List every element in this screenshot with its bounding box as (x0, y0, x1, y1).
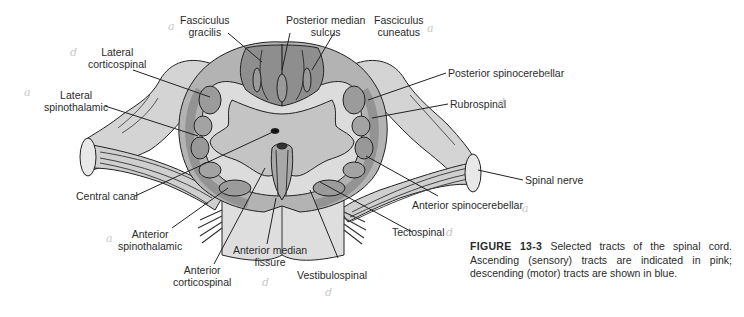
pencil-mark: a (522, 202, 529, 215)
label-line: fissure (233, 256, 307, 268)
label-line: cuneatus (374, 26, 424, 38)
pencil-mark: d (446, 226, 453, 239)
label-line: Lateral (88, 46, 146, 58)
label-fasciculus-gracilis: Fasciculus gracilis (180, 14, 230, 38)
label-tectospinal: Tectospinal (392, 226, 445, 238)
pencil-mark: a (24, 86, 31, 99)
pencil-mark: a (106, 232, 113, 245)
pencil-mark: d (325, 286, 332, 299)
label-line: spinothalamic (44, 101, 108, 113)
label-lateral-corticospinal: Lateral corticospinal (88, 46, 146, 70)
label-line: corticospinal (88, 58, 146, 70)
pencil-mark: a (168, 20, 175, 33)
label-vestibulospinal: Vestibulospinal (297, 269, 367, 281)
label-fasciculus-cuneatus: Fasciculus cuneatus (374, 14, 424, 38)
label-line: Anterior (173, 264, 231, 276)
label-line: Anterior (118, 228, 182, 240)
left-nerve-cut (80, 138, 96, 176)
label-posterior-median-sulcus: Posterior median sulcus (286, 14, 365, 38)
label-line: Fasciculus (374, 14, 424, 26)
label-anterior-spinothalamic: Anterior spinothalamic (118, 228, 182, 252)
label-line: Posterior median (286, 14, 365, 26)
pencil-mark: a (427, 22, 434, 35)
pencil-mark: d (70, 46, 77, 59)
pencil-mark: d (262, 276, 269, 289)
pencil-mark: a (545, 67, 552, 80)
label-line: corticospinal (173, 276, 231, 288)
pencil-mark: d (498, 96, 505, 109)
label-line: gracilis (180, 26, 230, 38)
label-line: Fasciculus (180, 14, 230, 26)
label-anterior-corticospinal: Anterior corticospinal (173, 264, 231, 288)
label-spinal-nerve: Spinal nerve (525, 174, 583, 186)
right-nerve-cut (465, 154, 481, 192)
figure-caption: FIGURE 13-3 Selected tracts of the spina… (470, 240, 732, 281)
label-line: Anterior median (233, 244, 307, 256)
label-line: sulcus (286, 26, 365, 38)
label-central-canal: Central canal (76, 190, 138, 202)
label-line: spinothalamic (118, 240, 182, 252)
label-anterior-median-fissure: Anterior median fissure (233, 244, 307, 268)
label-line: Lateral (44, 89, 108, 101)
label-anterior-spinocerebellar: Anterior spinocerebellar (412, 199, 523, 211)
label-lateral-spinothalamic: Lateral spinothalamic (44, 89, 108, 113)
figure-number: FIGURE 13-3 (470, 240, 542, 252)
